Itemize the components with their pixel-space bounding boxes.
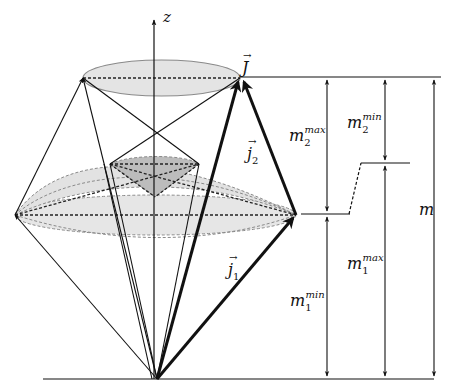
label-m2-max: m2max (289, 128, 326, 144)
label-m1-max: m1max (347, 256, 384, 272)
label-j2: j2 (247, 146, 258, 162)
label-m: m (419, 202, 434, 218)
label-m1-min: m1min (290, 293, 325, 309)
angular-momentum-diagram (0, 0, 452, 391)
label-J: J (242, 60, 248, 76)
offset-connector (349, 163, 361, 214)
label-z-axis: z (163, 10, 171, 25)
label-m2-min: m2min (347, 115, 382, 131)
upper-precession-circle (83, 60, 240, 96)
label-j1: j1 (228, 262, 239, 278)
